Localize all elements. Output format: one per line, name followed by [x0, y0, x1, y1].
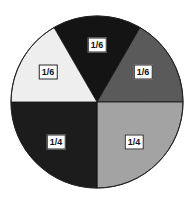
pie-chart	[0, 0, 191, 203]
slice-label-top: 1/6	[88, 38, 107, 53]
slice-label-upper-right: 1/6	[134, 65, 153, 80]
slice-label-lower-right: 1/4	[125, 135, 144, 150]
slice-label-lower-left: 1/4	[47, 135, 66, 150]
slice-label-upper-left: 1/6	[39, 65, 58, 80]
